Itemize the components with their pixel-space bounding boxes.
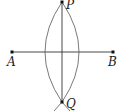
label-b: B xyxy=(107,55,117,69)
construction-svg: A B P Q xyxy=(0,0,121,111)
diagram-canvas: A B P Q xyxy=(0,0,121,111)
label-p: P xyxy=(65,0,75,12)
arc-left xyxy=(45,2,62,111)
arc-right xyxy=(62,2,79,111)
point-b xyxy=(112,51,115,54)
point-p xyxy=(61,1,64,4)
label-q: Q xyxy=(66,97,76,111)
point-q xyxy=(61,101,64,104)
point-a xyxy=(11,51,14,54)
label-a: A xyxy=(6,55,16,69)
